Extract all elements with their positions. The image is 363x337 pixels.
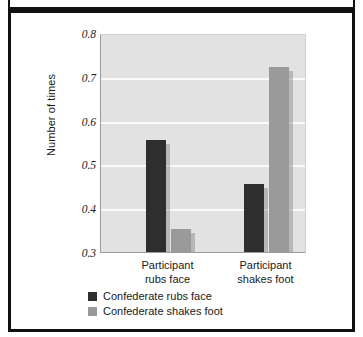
bar-body	[244, 184, 264, 252]
bar-shadow	[264, 188, 268, 253]
y-axis-tick-labels: 0.30.40.50.60.70.8	[58, 34, 96, 253]
legend-item-1: Confederate rubs face	[88, 290, 223, 303]
y-tick-label: 0.8	[62, 28, 96, 40]
y-tick-label: 0.5	[62, 159, 96, 171]
x-axis-label-line: shakes foot	[206, 273, 326, 287]
bar-body	[146, 140, 166, 252]
x-axis-label-group-2: Participantshakes foot	[206, 259, 326, 286]
y-tick-label: 0.6	[62, 116, 96, 128]
bar-shadow	[166, 144, 170, 253]
x-axis-label-line: Participant	[206, 259, 326, 273]
legend-item-2: Confederate shakes foot	[88, 305, 223, 318]
bar-2-2	[269, 67, 289, 252]
legend-swatch	[88, 307, 97, 316]
plot-area	[100, 34, 306, 253]
figure-frame: Number of times 0.30.40.50.60.70.8 Parti…	[8, 10, 355, 332]
legend-swatch	[88, 292, 97, 301]
bar-2-1	[244, 184, 264, 252]
bar-1-2	[171, 229, 191, 252]
bar-1-1	[146, 140, 166, 252]
y-axis-title: Number of times	[45, 45, 57, 185]
bar-shadow	[289, 71, 293, 253]
legend-label: Confederate rubs face	[103, 290, 212, 303]
y-tick-label: 0.3	[62, 247, 96, 259]
y-tick-label: 0.7	[62, 72, 96, 84]
figure-page: Number of times 0.30.40.50.60.70.8 Parti…	[0, 0, 363, 337]
bar-shadow	[191, 233, 195, 253]
legend: Confederate rubs faceConfederate shakes …	[88, 290, 223, 320]
y-tick-label: 0.4	[62, 203, 96, 215]
top-strip	[8, 0, 355, 7]
bar-chart: Number of times 0.30.40.50.60.70.8 Parti…	[11, 13, 352, 329]
bar-body	[171, 229, 191, 252]
legend-label: Confederate shakes foot	[103, 305, 223, 318]
bar-body	[269, 67, 289, 252]
